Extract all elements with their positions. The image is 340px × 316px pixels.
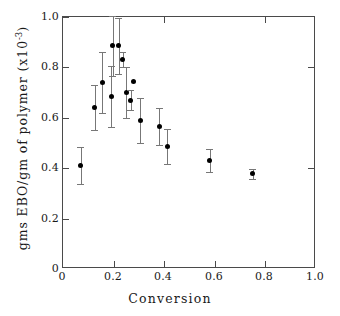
data-point-marker [116,43,121,48]
error-bar-cap [115,74,122,75]
data-point-marker [100,80,105,85]
y-axis-title-suffix: ) [15,26,30,32]
data-point-marker [131,79,136,84]
error-bar-cap [164,129,171,130]
scatter-plot-figure: 1.0 0.8 0.6 0.4 0.2 0 0 0.2 0.4 0.6 0.8 … [0,0,340,316]
error-bar-cap [115,18,122,19]
error-bar-cap [99,113,106,114]
error-bar-cap [249,169,256,170]
plot-area [62,16,315,268]
error-bar-cap [119,52,126,53]
error-bar-cap [156,108,163,109]
error-bar-cap [137,143,144,144]
data-points-layer [63,17,314,267]
x-tick-label: 0.4 [143,271,183,282]
x-tick-label: 0.6 [194,271,234,282]
data-point-marker [109,94,114,99]
x-axis-title: Conversion [0,291,340,306]
error-bar-cap [206,172,213,173]
data-point-marker [92,105,97,110]
error-bar-cap [91,130,98,131]
error-bar-cap [108,127,115,128]
error-bar-cap [77,147,84,148]
error-bar-cap [123,67,130,68]
error-bar-cap [109,76,116,77]
error-bar-cap [137,98,144,99]
data-point-marker [110,43,115,48]
error-bar-cap [91,85,98,86]
error-bar-cap [127,110,134,111]
error-bar-cap [164,164,171,165]
error-bar-cap [206,149,213,150]
x-tick-label: 0 [42,271,82,282]
data-point-marker [78,163,83,168]
data-point-marker [165,144,170,149]
error-bar-cap [249,179,256,180]
data-point-marker [128,98,133,103]
error-bar-cap [123,118,130,119]
data-point-marker [138,118,143,123]
y-axis-title: gms EBO/gm of polymer (x10-3) [14,8,30,268]
data-point-marker [120,57,125,62]
error-bar-cap [156,145,163,146]
y-axis-title-text: gms EBO/gm of polymer (x10 [15,40,30,250]
error-bar-cap [127,90,134,91]
error-bar-cap [77,184,84,185]
error-bar-cap [99,52,106,53]
x-tick-label: 0.2 [93,271,133,282]
y-axis-title-exponent: -3 [14,32,24,40]
x-tick-label: 0.8 [244,271,284,282]
x-tick-label: 1.0 [295,271,335,282]
data-point-marker [207,158,212,163]
data-point-marker [157,124,162,129]
data-point-marker [250,171,255,176]
